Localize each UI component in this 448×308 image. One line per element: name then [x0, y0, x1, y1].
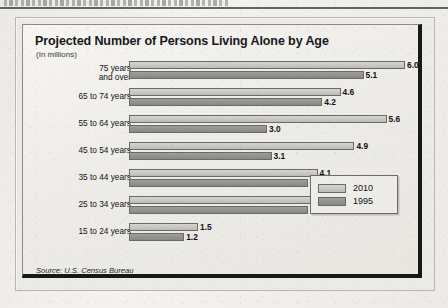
bars-container: 6.0 5.1: [129, 61, 405, 81]
bar-value-label: 4.9: [356, 141, 368, 151]
bar-value-label: 5.1: [366, 70, 378, 80]
category-label-line: 25 to 34 years: [0, 200, 131, 209]
bar-1995[interactable]: 3.1: [129, 152, 272, 160]
figure-outer-frame: Projected Number of Persons Living Alone…: [15, 17, 435, 291]
bar-value-label: 6.0: [407, 60, 419, 70]
bar-value-label: 4.2: [324, 97, 336, 107]
plot-area: 75 years and over 6.0 5.1: [35, 61, 407, 257]
bar-2010[interactable]: 6.0: [129, 61, 405, 69]
chart-legend: 2010 1995: [310, 175, 398, 214]
figure-inner-frame: Projected Number of Persons Living Alone…: [22, 24, 422, 278]
bars-container: 1.5 1.2: [129, 223, 198, 243]
category-label-line: 55 to 64 years: [0, 119, 131, 128]
bar-value-label: 3.1: [274, 151, 286, 161]
bar-value-label: 1.5: [200, 222, 212, 232]
bar-value-label: 4.6: [343, 87, 355, 97]
legend-swatch-1995-icon: [318, 197, 346, 206]
category-label: 35 to 44 years: [0, 173, 131, 182]
bars-container: 4.9 3.1: [129, 142, 354, 162]
page-running-head: [0, 0, 448, 12]
bar-1995[interactable]: 4.2: [129, 98, 322, 106]
bars-container: 4.6 4.2: [129, 88, 341, 108]
bars-container: 4.1 3.9: [129, 196, 318, 216]
bar-2010[interactable]: 4.9: [129, 142, 354, 150]
bar-value-label: 3.0: [269, 124, 281, 134]
category-label: 25 to 34 years: [0, 200, 131, 209]
legend-label-1995: 1995: [353, 196, 373, 206]
category-label: 55 to 64 years: [0, 119, 131, 128]
legend-label-2010: 2010: [353, 183, 373, 193]
category-label-line: and over: [0, 73, 131, 82]
bars-container: 5.6 3.0: [129, 115, 387, 135]
legend-swatch-2010-icon: [318, 184, 346, 193]
category-label-line: 45 to 54 years: [0, 146, 131, 155]
bar-2010[interactable]: 4.1: [129, 196, 318, 204]
category-label: 15 to 24 years: [0, 227, 131, 236]
bar-1995[interactable]: 3.9: [129, 179, 308, 187]
page-canvas: Projected Number of Persons Living Alone…: [0, 0, 448, 308]
chart-title: Projected Number of Persons Living Alone…: [35, 34, 329, 48]
category-label-line: 15 to 24 years: [0, 227, 131, 236]
category-label-line: 35 to 44 years: [0, 173, 131, 182]
category-label: 45 to 54 years: [0, 146, 131, 155]
bar-2010[interactable]: 4.1: [129, 169, 318, 177]
bar-2010[interactable]: 1.5: [129, 223, 198, 231]
category-label-line: 65 to 74 years: [0, 92, 131, 101]
bar-1995[interactable]: 3.0: [129, 125, 267, 133]
bar-value-label: 5.6: [389, 114, 401, 124]
category-label: 65 to 74 years: [0, 92, 131, 101]
category-label: 75 years and over: [0, 64, 131, 83]
bar-1995[interactable]: 5.1: [129, 71, 364, 79]
header-rule: [0, 7, 448, 9]
source-note: Source: U.S. Census Bureau: [36, 266, 134, 275]
chart-subtitle: (In millions): [36, 50, 77, 59]
bar-1995[interactable]: 1.2: [129, 233, 184, 241]
bar-1995[interactable]: 3.9: [129, 206, 308, 214]
bar-2010[interactable]: 4.6: [129, 88, 341, 96]
bar-2010[interactable]: 5.6: [129, 115, 387, 123]
running-head-illegible-text: [4, 0, 229, 6]
bar-value-label: 1.2: [186, 232, 198, 242]
bars-container: 4.1 3.9: [129, 169, 318, 189]
